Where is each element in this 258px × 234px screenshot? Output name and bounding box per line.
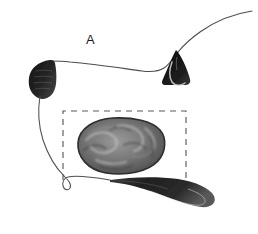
central-mass [78,118,165,174]
anatomical-illustration [0,0,258,234]
figure-panel: A [0,0,258,234]
panel-label: A [86,33,95,46]
